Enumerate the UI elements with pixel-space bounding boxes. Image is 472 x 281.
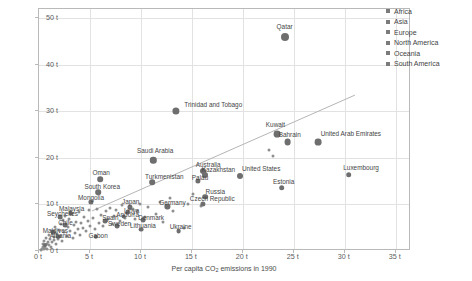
data-point (147, 206, 150, 209)
data-point (84, 230, 87, 233)
gridline-vertical (243, 9, 244, 249)
data-point (105, 209, 108, 212)
data-point-bahrain (284, 139, 291, 146)
legend-item-africa[interactable]: Africa (386, 6, 440, 17)
legend-swatch-icon (386, 51, 390, 55)
legend-item-asia[interactable]: Asia (386, 17, 440, 28)
legend: AfricaAsiaEuropeNorth AmericaOceaniaSout… (386, 6, 440, 69)
point-label-oman: Oman (92, 168, 109, 175)
point-label-turkmenistan: Turkmenistan (145, 173, 183, 180)
data-point-oman (97, 177, 103, 183)
x-tick-label: 15 t (171, 252, 211, 261)
data-point (133, 217, 136, 220)
legend-swatch-icon (386, 41, 390, 45)
gridline-horizontal (39, 65, 409, 66)
point-label-kazakhstan: Kazakhstan (202, 166, 235, 173)
point-label-luxembourg: Luxembourg (343, 164, 379, 171)
x-tick-label: 30 t (324, 252, 364, 261)
data-point (61, 240, 64, 243)
legend-swatch-icon (386, 30, 390, 34)
y-tick-label: 50 t (18, 13, 58, 22)
point-label-gabon: Gabon (89, 232, 108, 239)
point-label-chile: Chile (58, 218, 73, 225)
gridline-vertical (192, 9, 193, 249)
data-point (94, 228, 97, 231)
data-point-united-states (237, 173, 243, 179)
x-tick-label: 20 t (222, 252, 262, 261)
data-point (78, 233, 81, 236)
plot-area: QatarTrinidad and TobagoKuwaitBahrainUni… (38, 8, 410, 250)
legend-label: Africa (394, 8, 412, 15)
data-point (81, 226, 84, 229)
point-label-seychelles: Seychelles (47, 210, 78, 217)
gridline-horizontal (39, 158, 409, 159)
legend-label: Oceania (394, 50, 420, 57)
point-label-trinidad-and-tobago: Trinidad and Tobago (184, 100, 242, 107)
x-tick-mark (395, 250, 396, 253)
point-label-denmark: Denmark (138, 213, 164, 220)
point-label-sweden: Sweden (108, 219, 131, 226)
data-point (43, 239, 46, 242)
y-tick-mark (35, 64, 38, 65)
data-point (98, 221, 101, 224)
point-label-czech-republic: Czech Republic (190, 195, 235, 202)
y-tick-mark (35, 157, 38, 158)
data-point (96, 208, 99, 211)
point-label-albania: Albania (50, 231, 71, 238)
y-tick-mark (35, 17, 38, 18)
data-point-luxembourg (346, 172, 352, 178)
point-label-russia: Russia (206, 187, 226, 194)
y-tick-label: 10 t (18, 199, 58, 208)
data-point (272, 155, 275, 158)
y-tick-mark (35, 203, 38, 204)
gridline-vertical (294, 9, 295, 249)
point-label-lithuania: Lithuania (130, 222, 156, 229)
x-tick-label: 0 t (18, 252, 58, 261)
legend-item-europe[interactable]: Europe (386, 27, 440, 38)
legend-swatch-icon (386, 9, 390, 13)
data-point (92, 217, 95, 220)
x-tick-label: 5 t (69, 252, 109, 261)
x-tick-label: 35 t (375, 252, 415, 261)
x-tick-mark (293, 250, 294, 253)
gridline-horizontal (39, 204, 409, 205)
x-tick-mark (344, 250, 345, 253)
data-point (71, 236, 74, 239)
data-point (79, 222, 82, 225)
y-tick-label: 30 t (18, 106, 58, 115)
legend-label: North America (394, 39, 438, 46)
legend-item-oceania[interactable]: Oceania (386, 48, 440, 59)
point-label-palau: Palau (192, 173, 208, 180)
data-point-czech-republic (200, 201, 205, 206)
point-label-japan: Japan (122, 198, 139, 205)
gridline-horizontal (39, 111, 409, 112)
data-point (268, 148, 271, 151)
point-label-qatar: Qatar (277, 23, 293, 30)
x-tick-mark (38, 250, 39, 253)
x-tick-mark (242, 250, 243, 253)
data-point-saudi-arabia (150, 157, 156, 163)
point-label-united-arab-emirates: United Arab Emirates (321, 130, 381, 137)
x-tick-label: 10 t (120, 252, 160, 261)
data-point-qatar (281, 33, 289, 41)
legend-label: South America (394, 60, 440, 67)
gridline-horizontal (39, 18, 409, 19)
x-axis-label: Per capita CO2 emissions in 1990 (38, 265, 410, 273)
chart-root: QatarTrinidad and TobagoKuwaitBahrainUni… (0, 0, 472, 281)
data-point (102, 225, 105, 228)
data-point (171, 209, 174, 212)
legend-item-north-america[interactable]: North America (386, 38, 440, 49)
data-point-trinidad-and-tobago (172, 107, 179, 114)
data-point (53, 239, 56, 242)
y-tick-label: 40 t (18, 59, 58, 68)
data-point (73, 231, 76, 234)
data-point-turkmenistan (149, 179, 155, 185)
data-point (109, 206, 112, 209)
data-point-united-arab-emirates (315, 139, 322, 146)
point-label-bahrain: Bahrain (279, 130, 301, 137)
legend-item-south-america[interactable]: South America (386, 59, 440, 70)
point-label-kuwait: Kuwait (266, 121, 285, 128)
point-label-mongolia: Mongolia (78, 194, 104, 201)
gridline-vertical (90, 9, 91, 249)
data-point (162, 220, 165, 223)
